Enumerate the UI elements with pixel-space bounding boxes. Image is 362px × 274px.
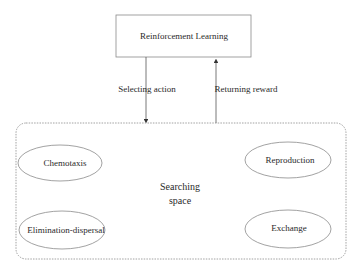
space-label: space — [169, 195, 191, 206]
elimination-dispersal-label: Elimination-dispersal — [27, 225, 104, 236]
chemotaxis-label: Chemotaxis — [44, 158, 87, 169]
reproduction-label: Reproduction — [266, 155, 315, 166]
selecting-action-label: Selecting action — [118, 84, 176, 95]
searching-label: Searching — [160, 181, 200, 192]
reinforcement-learning-label: Reinforcement Learning — [140, 31, 228, 42]
exchange-label: Exchange — [271, 223, 306, 234]
returning-reward-label: Returning reward — [214, 84, 277, 95]
